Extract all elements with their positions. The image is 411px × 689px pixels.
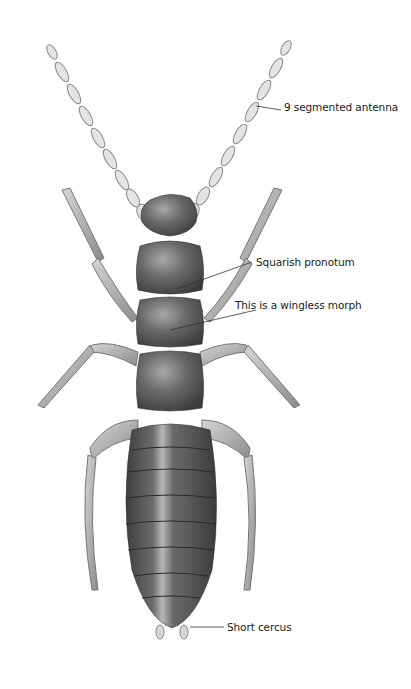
left-antenna (45, 43, 152, 221)
label-pronotum: Squarish pronotum (256, 256, 355, 268)
metathorax (136, 351, 203, 411)
label-antenna: 9 segmented antenna (284, 101, 398, 113)
label-cercus: Short cercus (227, 621, 292, 633)
abdomen (126, 424, 217, 628)
head (141, 194, 197, 236)
mesothorax (136, 297, 203, 347)
pronotum (136, 241, 203, 294)
label-wingless-morph: This is a wingless morph (235, 299, 362, 311)
